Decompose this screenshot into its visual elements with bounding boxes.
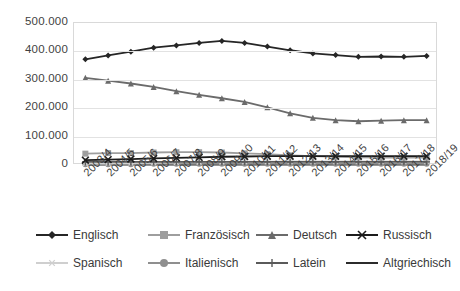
legend-label: Italienisch: [185, 257, 238, 269]
legend-label: Spanisch: [73, 257, 122, 269]
series-line: [85, 41, 426, 59]
gridline: [74, 108, 436, 109]
data-point-diamond: [151, 45, 157, 51]
gridline: [74, 51, 436, 52]
data-point-diamond: [82, 56, 88, 62]
legend-marker-cross-icon: [345, 228, 379, 242]
legend-label: Latein: [293, 257, 326, 269]
legend-marker-line-icon: [345, 256, 379, 270]
y-axis-tick-label: 500.000: [25, 16, 68, 27]
data-point-diamond: [219, 38, 225, 44]
data-point-circle: [160, 259, 168, 267]
series-deutsch: [82, 75, 429, 124]
data-point-diamond: [355, 54, 361, 60]
y-axis-tick-label: 200.000: [25, 101, 68, 112]
x-axis-tick-labels: 2003/42004/52005/62006/72007/82008/92009…: [0, 164, 455, 224]
legend-item-französisch[interactable]: Französisch: [147, 225, 250, 245]
data-point-diamond: [48, 231, 56, 239]
legend-marker-square-icon: [147, 228, 181, 242]
gridline: [74, 137, 436, 138]
legend-label: Französisch: [185, 229, 250, 241]
legend-marker-triangle-icon: [255, 228, 289, 242]
data-point-plus: [268, 259, 276, 267]
legend-marker-circle-icon: [147, 256, 181, 270]
series-line: [85, 78, 426, 121]
legend-item-deutsch[interactable]: Deutsch: [255, 225, 337, 245]
data-point-diamond: [196, 40, 202, 46]
legend-item-latein[interactable]: Latein: [255, 253, 326, 273]
legend-label: Deutsch: [293, 229, 337, 241]
gridline: [74, 80, 436, 81]
y-axis-tick-label: 400.000: [25, 44, 68, 55]
legend-marker-diamond-icon: [35, 228, 69, 242]
series-englisch: [82, 38, 429, 62]
data-point-diamond: [333, 52, 339, 58]
data-point-diamond: [401, 54, 407, 60]
legend-row: EnglischFranzösischDeutschRussisch: [0, 222, 455, 248]
legend-item-englisch[interactable]: Englisch: [35, 225, 118, 245]
data-point-diamond: [264, 44, 270, 50]
legend-item-russisch[interactable]: Russisch: [345, 225, 432, 245]
data-point-asterisk: [48, 260, 56, 266]
chart-legend: EnglischFranzösischDeutschRussisch Spani…: [0, 222, 455, 282]
y-axis-tick-label: 300.000: [25, 73, 68, 84]
legend-item-altgriechisch[interactable]: Altgriechisch: [345, 253, 451, 273]
legend-label: Russisch: [383, 229, 432, 241]
legend-label: Altgriechisch: [383, 257, 451, 269]
data-point-diamond: [242, 40, 248, 46]
data-point-diamond: [105, 52, 111, 58]
legend-item-italienisch[interactable]: Italienisch: [147, 253, 238, 273]
legend-row: SpanischItalienischLateinAltgriechisch: [0, 250, 455, 276]
data-point-diamond: [424, 53, 430, 59]
data-point-square: [160, 231, 168, 239]
legend-item-spanisch[interactable]: Spanisch: [35, 253, 122, 273]
data-point-diamond: [378, 54, 384, 60]
data-point-square: [82, 151, 88, 157]
data-point-diamond: [173, 42, 179, 48]
legend-label: Englisch: [73, 229, 118, 241]
legend-marker-asterisk-icon: [35, 256, 69, 270]
y-axis-tick-label: 100.000: [25, 130, 68, 141]
legend-marker-plus-icon: [255, 256, 289, 270]
